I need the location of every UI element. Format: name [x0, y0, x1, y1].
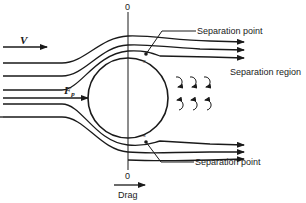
eddy-icon — [191, 100, 197, 110]
streamline-lower-2 — [3, 117, 244, 153]
separation-region-label: Separation region — [230, 67, 301, 77]
streamline-upper-2 — [3, 45, 244, 76]
axis-top-zero-label: 0 — [125, 2, 130, 12]
eddy-icon — [177, 100, 183, 110]
drag-label: Drag — [118, 190, 138, 200]
separation-point-bottom-label: Separation point — [195, 157, 261, 167]
velocity-label: V — [20, 34, 29, 46]
separation-marker-bottom-label: s — [143, 131, 146, 139]
streamline-upper-3 — [3, 51, 244, 90]
eddies-bottom-row — [177, 100, 211, 110]
eddies-top-row — [176, 77, 210, 87]
separation-marker-top-label: s — [143, 57, 146, 65]
eddy-icon — [205, 100, 211, 110]
flow-diagram: 0 0 Drag V Fp s s Separation point Separ… — [0, 0, 306, 203]
eddy-icon — [204, 77, 210, 87]
leader-line-top — [146, 31, 196, 54]
eddy-icon — [176, 77, 182, 87]
axis-bottom-zero-label: 0 — [125, 171, 130, 181]
separation-point-top-label: Separation point — [197, 26, 263, 36]
eddy-icon — [190, 77, 196, 87]
